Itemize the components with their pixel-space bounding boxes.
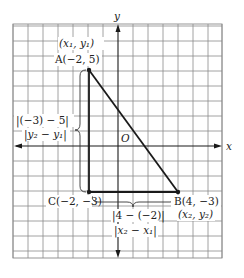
- x-axis-label: x: [226, 140, 232, 152]
- horizontal-distance-formula: |x₂ − x₁|: [114, 224, 157, 238]
- point-b: [176, 190, 180, 194]
- point-c-label: C(−2, −3): [48, 195, 102, 207]
- vertical-distance-formula: |y₂ − y₁|: [24, 128, 67, 142]
- point-b-generic-label: (x₂, y₂): [178, 208, 213, 220]
- coordinate-diagram: y x O (x₁, y₁) A(−2, 5) C(−2, −3) B(4, −…: [0, 0, 244, 278]
- origin-label: O: [121, 132, 130, 144]
- point-b-label: B(4, −3): [174, 195, 219, 207]
- point-c: [87, 190, 91, 194]
- y-axis: [116, 24, 121, 258]
- vertical-distance-expr: |(−3) − 5|: [16, 114, 69, 128]
- point-a-generic-label: (x₁, y₁): [59, 37, 94, 49]
- x-axis-right-arrow-icon: [214, 144, 222, 149]
- point-a: [87, 68, 91, 72]
- point-a-label: A(−2, 5): [54, 53, 100, 65]
- x-axis-left-arrow-icon: [14, 144, 22, 149]
- horizontal-distance-expr: |4 − (−2)|: [112, 209, 165, 223]
- y-axis-down-arrow-icon: [116, 250, 121, 258]
- y-axis-label: y: [113, 10, 121, 22]
- y-axis-up-arrow-icon: [116, 24, 121, 32]
